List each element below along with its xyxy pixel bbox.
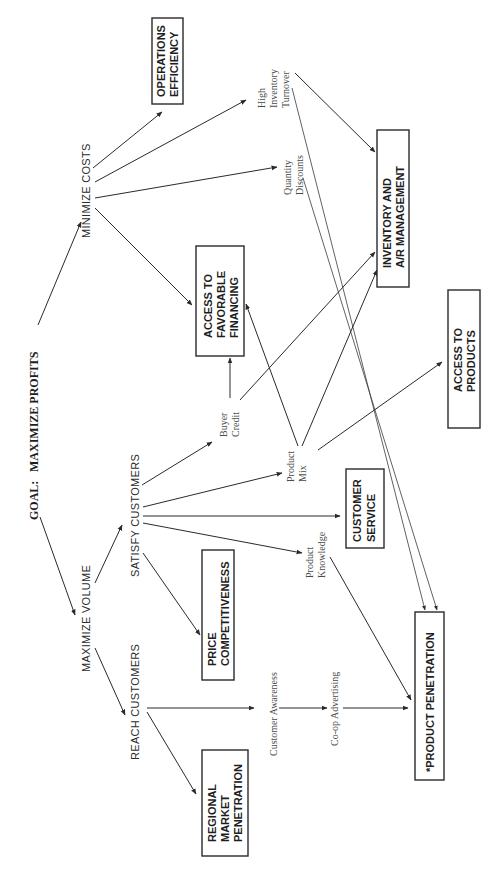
edge-buyer-credit-inventory-mgmt bbox=[240, 252, 375, 400]
edge-product-mix-access-products bbox=[318, 362, 442, 450]
svg-text:A/R MANAGEMENT: A/R MANAGEMENT bbox=[394, 166, 406, 268]
svg-text:Product: Product bbox=[304, 547, 315, 578]
edge-minimize-costs-operations-efficiency bbox=[93, 112, 162, 168]
objective-maximize-volume: MAXIMIZE VOLUME bbox=[80, 565, 92, 672]
factor-quantity-discounts: Quantity Discounts bbox=[282, 155, 305, 195]
edge-maximize-volume-satisfy-customers bbox=[95, 525, 122, 583]
svg-text:INVENTORY AND: INVENTORY AND bbox=[381, 178, 393, 268]
svg-text:PRICE: PRICE bbox=[206, 632, 218, 666]
box-access-to-products: ACCESS TO PRODUCTS bbox=[448, 290, 480, 428]
factor-product-knowledge: Product Knowledge bbox=[304, 531, 327, 578]
factor-co-op-advertising: Co-op Advertising bbox=[329, 672, 340, 746]
factor-product-mix: Product Mix bbox=[285, 451, 308, 482]
goal-node: GOAL: MAXIMIZE PROFITS bbox=[27, 351, 41, 520]
box-product-penetration: *PRODUCT PENETRATION bbox=[415, 612, 444, 780]
edge-minimize-costs-access-financing bbox=[95, 208, 192, 305]
edge-product-mix-access-financing bbox=[246, 304, 298, 446]
edge-goal-minimize-costs bbox=[38, 222, 81, 325]
box-regional-market-penetration: REGIONAL MARKET PENETRATION bbox=[202, 750, 248, 856]
box-price-competitiveness: PRICE COMPETITIVENESS bbox=[202, 550, 234, 680]
svg-text:Mix: Mix bbox=[297, 465, 308, 482]
svg-text:*PRODUCT PENETRATION: *PRODUCT PENETRATION bbox=[424, 632, 436, 772]
box-operations-efficiency: OPERATIONS EFFICIENCY bbox=[152, 18, 183, 104]
edge-product-knowledge-product-penetration bbox=[330, 557, 411, 700]
edge-satisfy-product-mix bbox=[143, 473, 282, 507]
factor-buyer-credit: Buyer Credit bbox=[218, 412, 241, 437]
svg-text:Quantity: Quantity bbox=[282, 160, 293, 195]
svg-text:COMPETITIVENESS: COMPETITIVENESS bbox=[219, 561, 231, 666]
svg-text:FAVORABLE: FAVORABLE bbox=[215, 271, 227, 338]
svg-text:Turnover: Turnover bbox=[280, 70, 291, 108]
svg-text:High: High bbox=[256, 88, 267, 108]
svg-text:Knowledge: Knowledge bbox=[316, 531, 327, 578]
edge-reach-regional-market bbox=[147, 712, 196, 794]
svg-text:REGIONAL: REGIONAL bbox=[206, 784, 218, 842]
objective-reach-customers: REACH CUSTOMERS bbox=[129, 644, 141, 760]
factor-high-inventory-turnover: High Inventory Turnover bbox=[256, 69, 291, 108]
diagram-canvas: GOAL: MAXIMIZE PROFITS MINIMIZE COSTS MA… bbox=[0, 0, 492, 889]
svg-text:PRODUCTS: PRODUCTS bbox=[465, 330, 477, 392]
edge-satisfy-buyer-credit bbox=[142, 442, 212, 485]
svg-text:Discounts: Discounts bbox=[294, 155, 305, 195]
svg-text:Inventory: Inventory bbox=[268, 69, 279, 108]
goal-prefix: GOAL: bbox=[27, 481, 41, 520]
svg-text:MARKET: MARKET bbox=[219, 795, 231, 842]
svg-text:EFFICIENCY: EFFICIENCY bbox=[168, 31, 180, 97]
svg-text:PENETRATION: PENETRATION bbox=[232, 764, 244, 842]
svg-text:Credit: Credit bbox=[230, 412, 241, 437]
box-access-to-favorable-financing: ACCESS TO FAVORABLE FINANCING bbox=[196, 246, 244, 356]
edge-minimize-costs-high-inventory-turnover bbox=[95, 100, 246, 182]
edge-maximize-volume-reach-customers bbox=[95, 648, 125, 715]
goal-label: MAXIMIZE PROFITS bbox=[27, 351, 41, 472]
svg-text:Buyer: Buyer bbox=[218, 412, 229, 437]
svg-text:ACCESS TO: ACCESS TO bbox=[202, 274, 214, 338]
edge-satisfy-product-knowledge bbox=[143, 523, 302, 553]
objective-satisfy-customers: SATISFY CUSTOMERS bbox=[129, 454, 141, 577]
svg-text:Product: Product bbox=[285, 451, 296, 482]
edge-satisfy-price-competitiveness bbox=[143, 553, 200, 635]
factor-customer-awareness: Customer Awareness bbox=[268, 672, 279, 756]
objective-minimize-costs: MINIMIZE COSTS bbox=[80, 143, 92, 238]
edge-goal-maximize-volume bbox=[40, 517, 75, 615]
svg-text:CUSTOMER: CUSTOMER bbox=[351, 479, 363, 542]
svg-text:OPERATIONS: OPERATIONS bbox=[155, 25, 167, 97]
box-customer-service: CUSTOMER SERVICE bbox=[346, 469, 384, 548]
box-inventory-ar-management: INVENTORY AND A/R MANAGEMENT bbox=[377, 130, 409, 287]
edge-minimize-costs-quantity-discounts bbox=[95, 167, 277, 198]
svg-text:SERVICE: SERVICE bbox=[365, 494, 377, 542]
svg-text:ACCESS TO: ACCESS TO bbox=[452, 328, 464, 392]
svg-text:FINANCING: FINANCING bbox=[228, 277, 240, 338]
edge-turnover-inventory-mgmt bbox=[295, 73, 375, 152]
